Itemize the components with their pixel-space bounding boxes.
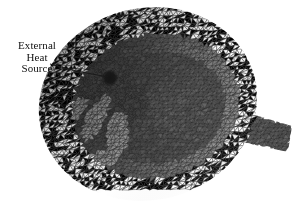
label-line-source: Source [6,63,68,75]
label-line-external: External [6,40,68,52]
mesh-render-canvas [0,0,297,215]
figure-root: External Heat Source [0,0,297,215]
external-heat-source-label: External Heat Source [6,40,68,75]
